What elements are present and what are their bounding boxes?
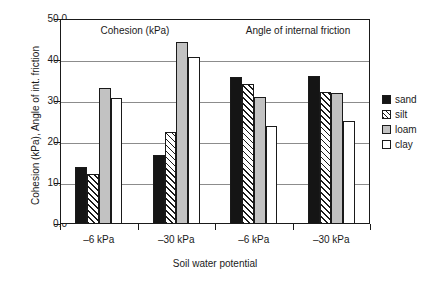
bar-sand-group-3: [230, 77, 242, 224]
x-tick-mark: [293, 224, 294, 230]
legend-item-clay: clay: [382, 137, 417, 152]
x-tick-mark: [215, 224, 216, 230]
legend-item-silt: silt: [382, 107, 417, 122]
bar-sand-group-1: [75, 167, 87, 224]
x-axis-title: Soil water potential: [60, 258, 370, 269]
x-tick-label: –30 kPa: [136, 234, 216, 245]
bar-sand-group-2: [153, 155, 165, 224]
bar-clay-group-2: [188, 57, 200, 224]
bar-chart: Cohesion (kPa), Angle of int. friction 5…: [0, 0, 445, 288]
legend-label: sand: [395, 95, 417, 105]
bar-loam-group-2: [176, 42, 188, 224]
x-tick-label: –30 kPa: [291, 234, 371, 245]
bars-layer: [60, 19, 370, 224]
x-tick-mark: [60, 224, 61, 230]
bar-loam-group-1: [99, 88, 111, 224]
bar-silt-group-4: [320, 92, 332, 224]
bar-silt-group-2: [165, 132, 177, 224]
bar-silt-group-1: [87, 174, 99, 224]
x-tick-label: –6 kPa: [214, 234, 294, 245]
legend: sandsiltloamclay: [382, 92, 417, 152]
bar-clay-group-1: [111, 98, 123, 224]
legend-item-loam: loam: [382, 122, 417, 137]
bar-clay-group-4: [343, 121, 355, 224]
x-tick-label: –6 kPa: [59, 234, 139, 245]
bar-loam-group-3: [254, 97, 266, 224]
legend-label: clay: [395, 140, 413, 150]
panel-title-cohesion: Cohesion (kPa): [60, 25, 210, 36]
legend-swatch-sand: [382, 95, 391, 104]
x-tick-mark: [370, 224, 371, 230]
bar-clay-group-3: [266, 126, 278, 224]
panel-title-angle-of-internal-friction: Angle of internal friction: [218, 25, 378, 36]
bar-loam-group-4: [331, 93, 343, 224]
legend-item-sand: sand: [382, 92, 417, 107]
legend-swatch-loam: [382, 125, 391, 134]
bar-sand-group-4: [308, 76, 320, 224]
bar-silt-group-3: [242, 84, 254, 224]
y-axis-title: Cohesion (kPa), Angle of int. friction: [30, 21, 41, 231]
x-tick-mark: [138, 224, 139, 230]
legend-swatch-silt: [382, 110, 391, 119]
legend-label: loam: [395, 125, 417, 135]
legend-label: silt: [395, 110, 407, 120]
legend-swatch-clay: [382, 140, 391, 149]
